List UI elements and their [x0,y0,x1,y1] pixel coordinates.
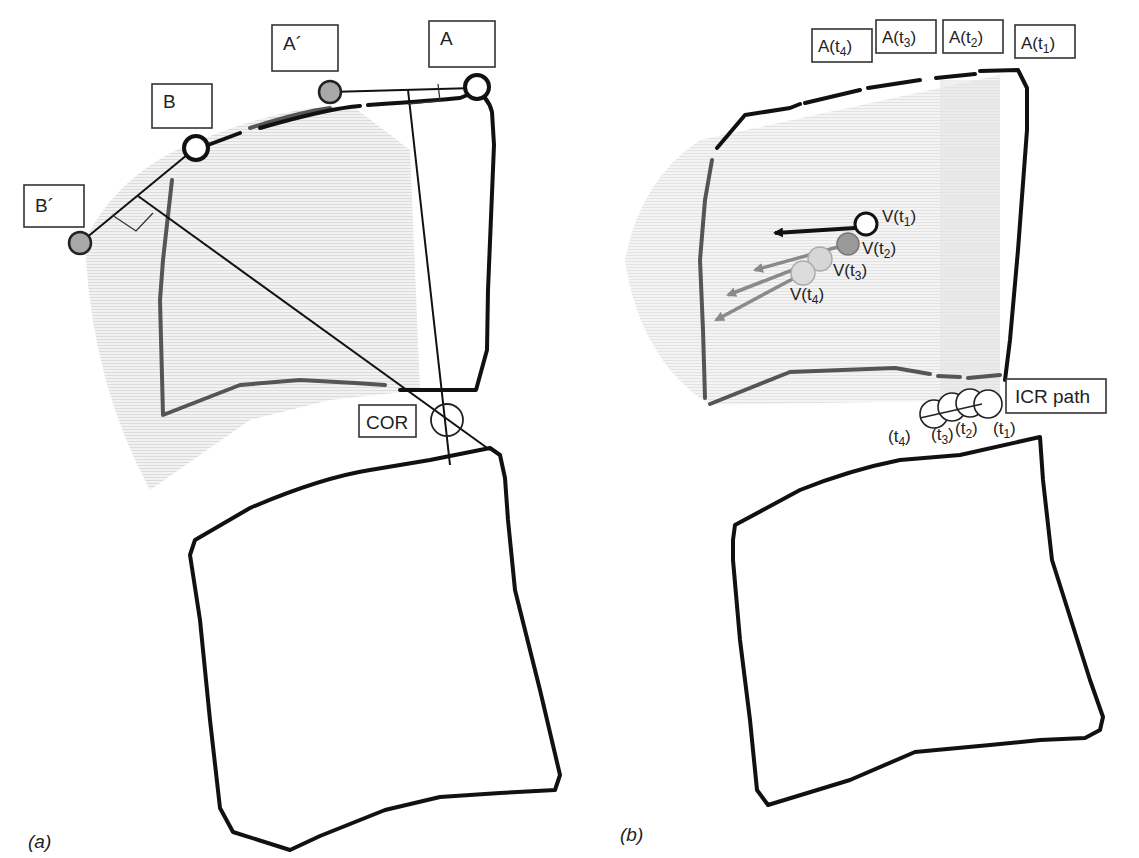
label-v-t1: V(t1) [882,207,916,229]
label-v-t2: V(t2) [862,239,896,261]
label-a-t4: A(t4) [812,29,872,62]
point-v-t2 [837,233,859,255]
marker-b [184,136,208,160]
lower-vertebra [190,448,560,850]
label-cor: COR [359,405,416,437]
panel-b: V(t1) V(t2) V(t3) V(t4) A(t4) A(t3) A(t2… [620,20,1106,845]
panel-b-label: (b) [620,824,643,845]
label-a-t3: A(t3) [876,20,936,53]
svg-text:A(t1): A(t1) [1021,34,1055,56]
label-icr-t3: (t3) [931,425,954,447]
sweep-band [940,80,1000,400]
svg-text:A(t4): A(t4) [818,37,852,59]
svg-text:COR: COR [366,412,408,433]
label-icr-path: ICR path [1006,379,1106,413]
svg-text:A(t3): A(t3) [882,28,916,50]
label-v-t4: V(t4) [790,285,824,307]
svg-text:A(t2): A(t2) [949,28,983,50]
svg-text:A´: A´ [283,33,302,54]
label-b: B [152,84,212,128]
label-b-prime: B´ [24,185,84,227]
kinematics-figure: A A´ B B´ COR (a) [0,0,1139,858]
label-a: A [429,21,495,67]
svg-text:ICR path: ICR path [1015,386,1090,407]
lower-vertebra-b [733,437,1103,805]
svg-text:A: A [440,28,453,49]
label-icr-t1: (t1) [993,419,1016,441]
label-a-t2: A(t2) [943,20,1003,53]
svg-text:B: B [163,91,176,112]
segment-a-prime-to-a [330,88,475,92]
label-a-t1: A(t1) [1015,25,1075,58]
label-icr-t2: (t2) [955,419,978,441]
label-icr-t4: (t4) [888,427,911,449]
label-a-prime: A´ [272,25,338,71]
point-v-t4 [791,261,815,285]
marker-b-prime [69,232,91,254]
svg-text:B´: B´ [35,195,54,216]
label-v-t3: V(t3) [833,261,867,283]
point-v-t1 [855,213,877,235]
panel-a: A A´ B B´ COR (a) [24,21,560,852]
icr-circle-t1 [974,390,1002,418]
panel-a-label: (a) [28,831,51,852]
marker-a [465,75,489,99]
marker-a-prime [319,81,341,103]
